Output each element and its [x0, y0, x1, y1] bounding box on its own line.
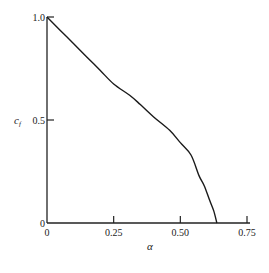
x-tick-label: 0.75 — [238, 227, 256, 238]
x-ticks: 00.250.500.75 — [45, 216, 256, 238]
chart: 00.51.0 00.250.500.75 cf α — [0, 0, 269, 273]
x-tick-label: 0.50 — [172, 227, 190, 238]
y-tick-label: 0.5 — [33, 115, 46, 126]
y-tick-label: 1.0 — [33, 12, 46, 23]
data-curve — [47, 17, 217, 223]
x-tick-label: 0 — [45, 227, 50, 238]
y-axis-label: cf — [14, 114, 22, 128]
x-axis-label: α — [147, 240, 153, 252]
y-ticks: 00.51.0 — [33, 12, 55, 229]
x-tick-label: 0.25 — [105, 227, 123, 238]
